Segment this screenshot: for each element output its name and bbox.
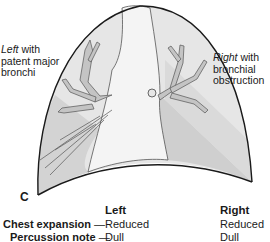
row-value-right: Reduced — [220, 218, 264, 230]
right-lung-label: Right withbronchialobstruction — [213, 52, 264, 87]
table-row: Chest expansion — — [3, 218, 105, 230]
left-lung-label: Left withpatent majorbronchi — [1, 44, 59, 79]
row-value-right: Dull — [220, 231, 239, 242]
row-value-left: Dull — [105, 231, 124, 242]
panel-label: C — [20, 190, 29, 204]
table-row: Percussion note — — [10, 231, 110, 242]
row-value-left: Reduced — [105, 218, 149, 230]
column-header-right: Right — [220, 204, 249, 216]
column-header-left: Left — [105, 204, 126, 216]
